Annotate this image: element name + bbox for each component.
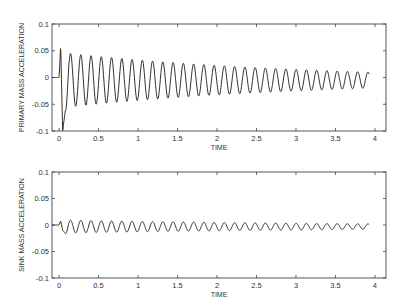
y-tick-label: -0.05 [32, 247, 49, 256]
x-tick-label: 4 [373, 281, 377, 290]
signal-trace [52, 49, 369, 131]
y-tick-label: 0 [45, 73, 49, 82]
x-tick-label: 0.5 [93, 281, 103, 290]
figure: 00.511.522.533.540.10.050-0.05-0.1TIMEPR… [0, 0, 403, 306]
x-tick-label: 2 [215, 281, 219, 290]
signal-trace [52, 220, 369, 234]
y-tick-label: 0.1 [39, 20, 49, 29]
y-tick-label: -0.1 [36, 274, 49, 283]
x-tick-label: 3 [294, 281, 298, 290]
y-axis-label: PRIMARY MASS ACCELERATION [18, 23, 25, 132]
x-tick-label: 2.5 [251, 281, 261, 290]
x-tick-label: 3.5 [330, 281, 340, 290]
x-axis-label: TIME [211, 291, 228, 298]
plot-frame [52, 24, 386, 131]
x-tick-label: 0.5 [93, 134, 103, 143]
primary-mass-plot: 00.511.522.533.540.10.050-0.05-0.1TIMEPR… [18, 20, 386, 152]
y-tick-label: 0.1 [39, 168, 49, 177]
x-tick-label: 0 [57, 281, 61, 290]
x-tick-label: 3 [294, 134, 298, 143]
y-tick-label: 0 [45, 221, 49, 230]
x-tick-label: 2.5 [251, 134, 261, 143]
y-tick-label: 0.05 [34, 46, 49, 55]
x-tick-label: 2 [215, 134, 219, 143]
x-axis-label: TIME [211, 144, 228, 151]
y-tick-label: -0.1 [36, 127, 49, 136]
y-tick-label: -0.05 [32, 100, 49, 109]
x-tick-label: 1 [136, 281, 140, 290]
x-tick-label: 4 [373, 134, 377, 143]
sink-mass-plot: 00.511.522.533.540.10.050-0.05-0.1TIMESI… [18, 168, 386, 299]
x-tick-label: 1.5 [172, 281, 182, 290]
y-axis-label: SINK MASS ACCELERATION [18, 178, 25, 272]
x-tick-label: 3.5 [330, 134, 340, 143]
x-tick-label: 1 [136, 134, 140, 143]
x-tick-label: 0 [57, 134, 61, 143]
y-tick-label: 0.05 [34, 194, 49, 203]
x-tick-label: 1.5 [172, 134, 182, 143]
